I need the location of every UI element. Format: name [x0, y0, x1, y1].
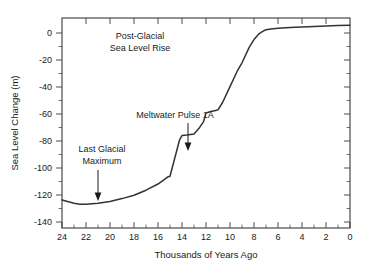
y-tick-labels: 0 -20 -40 -60 -80 -100 -120 -140	[34, 28, 52, 227]
annotation-last-glacial-maximum-arrow	[95, 170, 102, 201]
annotation-meltwater-pulse-1a-arrow	[185, 123, 192, 151]
y-axis-right-ticks	[344, 33, 350, 222]
x-tick-label: 18	[129, 232, 139, 242]
annotation-last-glacial-maximum-label2: Maximum	[82, 156, 121, 166]
y-tick-label: -60	[39, 109, 52, 119]
x-tick-label: 2	[323, 232, 328, 242]
x-tick-label: 22	[81, 232, 91, 242]
sea-level-curve	[62, 25, 350, 204]
x-tick-labels: 24 22 20 18 16 14 12 10 8 6 4 2 0	[57, 232, 353, 242]
x-tick-label: 0	[347, 232, 352, 242]
y-tick-label: -80	[39, 136, 52, 146]
x-tick-label: 12	[201, 232, 211, 242]
x-tick-label: 6	[275, 232, 280, 242]
chart-title-line2: Sea Level Rise	[110, 43, 171, 53]
x-tick-label: 8	[251, 232, 256, 242]
chart-title-line1: Post-Glacial	[116, 31, 165, 41]
x-tick-label: 24	[57, 232, 67, 242]
y-tick-label: -20	[39, 55, 52, 65]
y-tick-label: -140	[34, 217, 52, 227]
sea-level-chart: 24 22 20 18 16 14 12 10 8 6 4 2 0 0 -20 …	[0, 0, 377, 274]
x-axis-title: Thousands of Years Ago	[155, 249, 258, 260]
x-tick-label: 4	[299, 232, 304, 242]
x-tick-label: 14	[177, 232, 187, 242]
y-tick-label: -100	[34, 163, 52, 173]
y-axis-title: Sea Level Change (m)	[9, 75, 20, 170]
y-tick-label: 0	[47, 28, 52, 38]
x-tick-label: 20	[105, 232, 115, 242]
x-axis-major-ticks	[62, 222, 350, 228]
plot-frame	[62, 18, 350, 228]
x-tick-label: 16	[153, 232, 163, 242]
chart-figure: 24 22 20 18 16 14 12 10 8 6 4 2 0 0 -20 …	[0, 0, 377, 274]
x-axis-top-ticks	[86, 18, 326, 24]
y-tick-label: -40	[39, 82, 52, 92]
annotation-meltwater-pulse-1a-label: Meltwater Pulse 1A	[136, 110, 214, 120]
y-tick-label: -120	[34, 190, 52, 200]
annotation-last-glacial-maximum-label1: Last Glacial	[78, 144, 125, 154]
x-tick-label: 10	[225, 232, 235, 242]
